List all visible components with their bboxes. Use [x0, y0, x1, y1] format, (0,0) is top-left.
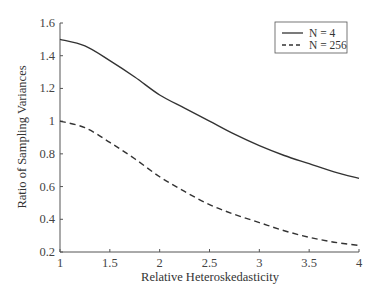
x-tick-label: 3.5	[301, 256, 317, 270]
y-ticks: 0.20.40.60.811.21.41.6	[39, 16, 63, 259]
y-tick-label: 1.4	[39, 49, 55, 63]
series-line-n4	[60, 39, 359, 178]
x-tick-label: 2	[157, 256, 163, 270]
y-tick-label: 1.2	[39, 81, 55, 95]
legend: N = 4 N = 256	[275, 22, 347, 53]
x-tick-label: 4	[356, 256, 363, 270]
y-axis-label: Ratio of Sampling Variances	[15, 65, 29, 208]
y-tick-label: 0.8	[39, 147, 55, 161]
series-line-n256	[60, 121, 359, 245]
y-axis-label-group: Ratio of Sampling Variances	[15, 65, 29, 208]
y-tick-label: 1.6	[39, 16, 55, 30]
line-chart: Ratio of Sampling Variances Relative Het…	[0, 0, 379, 296]
y-tick-label: 0.4	[39, 212, 55, 226]
x-tick-label: 1.5	[102, 256, 118, 270]
data-series	[60, 39, 359, 245]
legend-label-n256: N = 256	[309, 39, 347, 51]
y-tick-label: 0.6	[39, 180, 55, 194]
x-tick-label: 3	[256, 256, 262, 270]
x-axis-label: Relative Heteroskedasticity	[141, 270, 280, 284]
y-tick-label: 0.2	[39, 245, 55, 259]
x-tick-label: 1	[57, 256, 63, 270]
legend-label-n4: N = 4	[309, 27, 336, 39]
x-tick-label: 2.5	[202, 256, 218, 270]
y-tick-label: 1	[49, 114, 55, 128]
